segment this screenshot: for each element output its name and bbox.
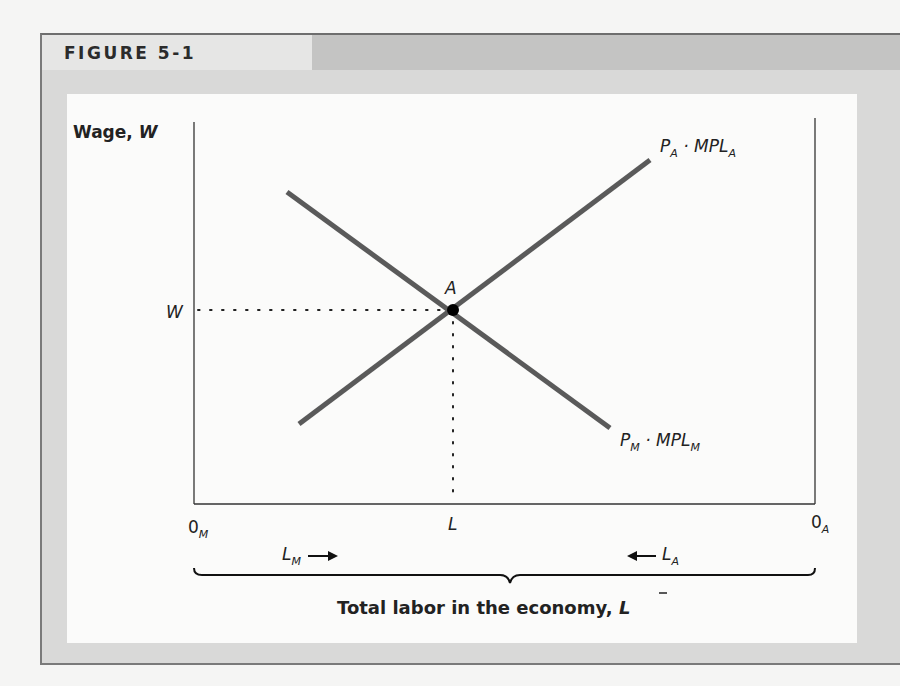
total-labor-brace	[194, 568, 815, 583]
wage-tick: W	[166, 302, 184, 322]
pa-mpla-label: PA · MPLA	[660, 136, 736, 160]
point-label: A	[444, 278, 457, 298]
equilibrium-point	[447, 304, 459, 316]
curve-pa-mpla	[299, 160, 650, 424]
origin-a-label: 0A	[811, 512, 829, 536]
labor-tick: L	[448, 514, 457, 534]
origin-m-label: 0M	[188, 517, 209, 541]
arrow-left-icon	[627, 551, 656, 561]
la-label: LA	[662, 544, 679, 568]
arrow-right-icon	[308, 551, 338, 561]
y-axis-title: Wage, W	[73, 122, 159, 142]
pm-mplm-label: PM · MPLM	[620, 430, 700, 454]
lm-label: LM	[282, 544, 301, 568]
x-axis-title: Total labor in the economy, L	[337, 597, 630, 618]
